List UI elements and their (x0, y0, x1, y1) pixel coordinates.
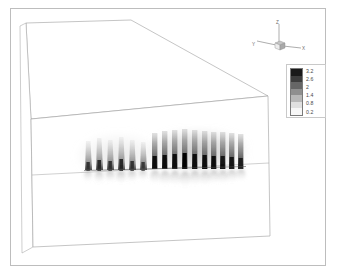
colorbar-swatch-5 (291, 102, 302, 109)
axis-label-x: X (302, 46, 305, 51)
colorbar-label-4: 0.8 (306, 101, 314, 106)
colorbar-swatch-1 (291, 76, 302, 83)
y-axis-line (257, 41, 276, 45)
colorbar-legend: 3.22.621.40.80.2 (286, 64, 326, 118)
colorbar-gradient-strip (290, 68, 303, 116)
colorbar-swatch-4 (291, 95, 302, 102)
visualization-canvas: Z Y X 3.22.621.40.80.2 (0, 0, 337, 280)
colorbar-swatch-0 (291, 69, 302, 76)
plume-field (76, 129, 248, 187)
colorbar-tick-labels: 3.22.621.40.80.2 (306, 68, 314, 116)
axis-label-y: Y (252, 42, 255, 47)
x-axis-line (283, 46, 301, 48)
colorbar-label-2: 2 (306, 85, 314, 90)
colorbar-swatch-3 (291, 89, 302, 96)
colorbar-swatch-2 (291, 82, 302, 89)
axis-label-z: Z (276, 20, 279, 25)
colorbar-label-5: 0.2 (306, 110, 314, 115)
colorbar-label-0: 3.2 (306, 69, 314, 74)
colorbar-swatch-6 (291, 108, 302, 115)
colorbar-label-3: 1.4 (306, 93, 314, 98)
axis-triad (257, 24, 301, 50)
colorbar-label-1: 2.6 (306, 77, 314, 82)
scene-svg (0, 0, 337, 280)
origin-cube (275, 41, 285, 50)
